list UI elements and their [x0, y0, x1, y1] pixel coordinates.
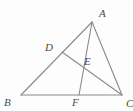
vertex-label-C: C: [126, 98, 133, 109]
vertex-label-B: B: [4, 97, 11, 108]
vertex-label-D: D: [45, 42, 53, 53]
geometry-canvas: [0, 0, 133, 111]
geometry-figure: A D E B F C: [0, 0, 133, 111]
vertex-label-A: A: [99, 8, 106, 19]
vertex-label-F: F: [72, 97, 79, 108]
vertex-label-E: E: [84, 56, 91, 67]
